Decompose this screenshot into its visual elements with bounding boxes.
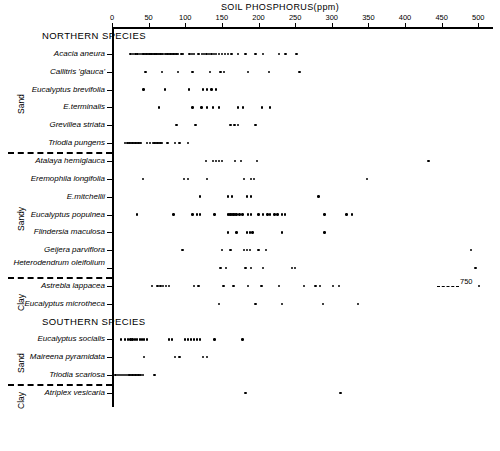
section-header-northern-species: NORTHERN SPECIES xyxy=(42,30,146,41)
data-point xyxy=(193,285,195,287)
off-scale-value-label: 750 xyxy=(460,277,473,286)
data-point xyxy=(143,356,145,358)
species-label: Atalaya hemiglauca xyxy=(35,156,105,165)
x-axis-tick-label: 500 xyxy=(463,13,493,22)
soil-group-label: Clay xyxy=(16,294,26,311)
data-point xyxy=(187,142,189,144)
data-point xyxy=(222,285,224,287)
data-point xyxy=(209,71,211,73)
data-point xyxy=(227,53,229,55)
x-axis-tick xyxy=(442,23,443,28)
x-axis-tick xyxy=(332,23,333,28)
data-point xyxy=(427,160,429,162)
data-point xyxy=(253,178,255,180)
species-label: Atriplex vesicaria xyxy=(45,388,105,397)
data-point xyxy=(221,160,223,162)
data-point xyxy=(254,53,256,55)
y-axis-tick xyxy=(107,179,112,180)
data-point xyxy=(257,249,259,251)
data-point xyxy=(205,160,207,162)
species-label: E.mitchellii xyxy=(67,192,105,201)
species-label: E.terminalis xyxy=(63,102,105,111)
x-axis-tick-label: 150 xyxy=(207,13,237,22)
x-axis-tick-label: 400 xyxy=(390,13,420,22)
data-point xyxy=(244,392,246,394)
data-point xyxy=(317,195,319,197)
y-axis-tick xyxy=(107,232,112,233)
data-point xyxy=(212,160,214,162)
data-point xyxy=(268,71,270,73)
soil-group-label: Clay xyxy=(16,392,26,409)
data-point xyxy=(213,213,215,215)
data-point xyxy=(303,285,305,287)
x-axis-tick xyxy=(222,23,223,28)
data-point xyxy=(351,213,353,215)
x-axis-tick xyxy=(405,23,406,28)
data-point xyxy=(229,249,231,251)
data-point xyxy=(218,53,220,55)
data-point xyxy=(215,53,217,55)
data-point xyxy=(241,338,243,340)
data-point xyxy=(269,213,271,215)
y-axis-tick xyxy=(107,357,112,358)
data-point xyxy=(174,356,176,358)
species-label: Eucalyptus populnea xyxy=(31,210,105,219)
data-point xyxy=(196,213,198,215)
x-axis-tick-label: 250 xyxy=(280,13,310,22)
data-point xyxy=(177,71,179,73)
species-label: Eucalyptus socialis xyxy=(37,334,105,343)
data-point xyxy=(247,71,249,73)
species-label: Grevillea striata xyxy=(49,120,105,129)
data-point xyxy=(243,178,245,180)
data-point xyxy=(144,71,146,73)
x-axis-tick-label: 100 xyxy=(170,13,200,22)
data-point xyxy=(229,124,231,126)
data-point xyxy=(197,53,199,55)
data-point xyxy=(281,231,283,233)
x-axis-line xyxy=(112,27,493,29)
data-point xyxy=(254,124,256,126)
x-axis-tick xyxy=(368,23,369,28)
species-label: Triodia scariosa xyxy=(49,370,105,379)
data-point xyxy=(171,338,173,340)
data-point xyxy=(269,106,271,108)
group-separator xyxy=(8,384,112,386)
data-point xyxy=(196,338,198,340)
y-axis-tick xyxy=(107,90,112,91)
data-point xyxy=(244,267,246,269)
data-point xyxy=(194,124,196,126)
data-point xyxy=(322,303,324,305)
data-point xyxy=(164,88,166,90)
data-point xyxy=(221,53,223,55)
data-point xyxy=(151,285,153,287)
data-point xyxy=(474,267,476,269)
data-point xyxy=(276,213,278,215)
data-point xyxy=(240,160,242,162)
data-point xyxy=(174,142,176,144)
data-point xyxy=(244,53,246,55)
data-point xyxy=(246,249,248,251)
data-point xyxy=(221,249,223,251)
data-point xyxy=(218,303,220,305)
data-point xyxy=(254,303,256,305)
y-axis-tick xyxy=(107,54,112,55)
data-point xyxy=(261,106,263,108)
data-point xyxy=(233,124,235,126)
species-label: Acacia aneura xyxy=(54,49,105,58)
y-axis-tick xyxy=(107,125,112,126)
data-point xyxy=(278,53,280,55)
y-axis-tick xyxy=(107,72,112,73)
data-point xyxy=(191,213,193,215)
data-point xyxy=(332,285,334,287)
data-point xyxy=(199,195,201,197)
y-axis-tick xyxy=(107,375,112,376)
species-label: Geijera parviflora xyxy=(44,245,105,254)
data-point xyxy=(193,53,195,55)
soil-group-label: Sandy xyxy=(16,206,26,230)
data-point xyxy=(158,106,160,108)
data-point xyxy=(224,53,226,55)
data-point xyxy=(161,71,163,73)
x-axis-tick xyxy=(149,23,150,28)
data-point xyxy=(219,71,221,73)
species-label: Triodia pungens xyxy=(48,138,105,147)
